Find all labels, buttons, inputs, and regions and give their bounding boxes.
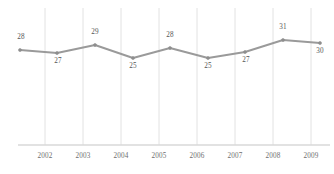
x-axis-tick-label: 2003 <box>75 152 90 160</box>
data-point-marker <box>94 44 97 47</box>
data-point-marker <box>319 42 322 45</box>
data-point-marker <box>19 49 22 52</box>
x-axis-tick-label: 2004 <box>113 152 128 160</box>
x-axis-tick-label: 2006 <box>189 152 204 160</box>
data-point-label: 28 <box>17 33 24 41</box>
data-point-label: 27 <box>242 56 249 64</box>
line-chart: 282729252825273130 200220032004200520062… <box>0 0 334 174</box>
data-point-marker <box>207 57 210 60</box>
data-point-label: 25 <box>129 62 136 70</box>
data-point-marker <box>56 52 59 55</box>
data-point-label: 28 <box>166 31 173 39</box>
data-point-marker <box>169 47 172 50</box>
data-point-label: 30 <box>316 47 323 55</box>
data-point-marker <box>282 39 285 42</box>
x-axis-tick-label: 2008 <box>265 152 280 160</box>
data-point-label: 25 <box>204 62 211 70</box>
x-axis-tick-label: 2007 <box>227 152 242 160</box>
x-axis-tick-label: 2009 <box>303 152 318 160</box>
x-axis-tick-label: 2002 <box>37 152 52 160</box>
gridlines <box>45 8 311 145</box>
data-point-label: 27 <box>54 57 61 65</box>
x-axis-tick-label: 2005 <box>151 152 166 160</box>
data-point-label: 31 <box>279 23 286 31</box>
data-point-marker <box>244 51 247 54</box>
data-point-label: 29 <box>91 28 98 36</box>
data-point-marker <box>132 57 135 60</box>
